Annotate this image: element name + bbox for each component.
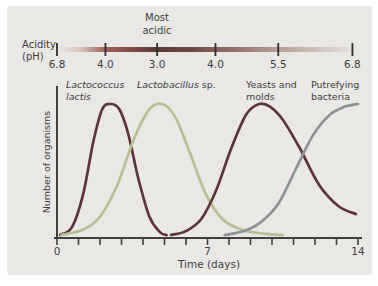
x-tick-label: 14 — [343, 245, 373, 257]
series-label-line: molds — [246, 91, 297, 103]
ph-axis-label-line1: Acidity — [22, 39, 56, 51]
x-tick-label: 0 — [42, 245, 72, 257]
most-acidic-annotation: Most acidic — [127, 11, 187, 37]
x-axis-label: Time (days) — [134, 258, 284, 270]
most-acidic-line2: acidic — [127, 24, 187, 37]
ph-tick-label: 3.0 — [142, 58, 172, 70]
series-label-line: bacteria — [311, 91, 359, 103]
series-label-putrefying-bacteria: Putrefying bacteria — [311, 79, 359, 103]
series-label-yeasts-and-molds: Yeasts and molds — [246, 79, 297, 103]
series-label-line: Putrefying — [311, 79, 359, 91]
series-label-line: Lactobacillus — [137, 79, 199, 90]
ph-tick-label: 6.8 — [42, 58, 72, 70]
curve-yeasts-and-molds — [171, 103, 356, 235]
curve-lactococcus-lactis — [60, 104, 166, 235]
x-tick-label: 7 — [193, 245, 223, 257]
ph-tick-label: 6.8 — [337, 58, 367, 70]
series-label-lactococcus-lactis: Lactococcus lactis — [66, 79, 124, 103]
y-axis-label: Number of organisms — [41, 87, 53, 237]
curve-lactobacillus-sp — [61, 103, 282, 235]
chart-canvas — [0, 0, 378, 286]
ph-gradient-bar — [57, 47, 356, 52]
ph-tick-label: 5.5 — [263, 58, 293, 70]
ph-tick-label: 4.0 — [200, 58, 230, 70]
most-acidic-line1: Most — [127, 11, 187, 24]
series-label-line: Yeasts and — [246, 79, 297, 91]
series-label-lactobacillus-sp: Lactobacillus sp. — [137, 79, 216, 91]
series-label-suffix: sp. — [199, 79, 216, 90]
curve-putrefying-bacteria — [225, 104, 358, 235]
series-label-line: lactis — [66, 91, 124, 103]
series-label-line: Lactococcus — [66, 79, 124, 91]
ph-tick-label: 4.0 — [90, 58, 120, 70]
